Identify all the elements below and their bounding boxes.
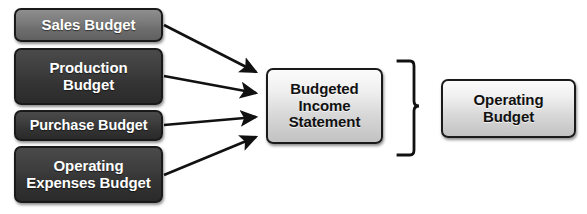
node-production-budget-label: Production Budget xyxy=(16,60,161,94)
arrow-purchase-to-income xyxy=(164,117,256,125)
node-sales-budget[interactable]: Sales Budget xyxy=(14,8,163,42)
node-purchase-budget[interactable]: Purchase Budget xyxy=(14,110,163,141)
node-purchase-budget-label: Purchase Budget xyxy=(16,117,161,133)
node-operating-budget[interactable]: Operating Budget xyxy=(441,79,576,138)
node-budgeted-income-statement[interactable]: Budgeted Income Statement xyxy=(266,68,383,144)
arrow-operating-expenses-to-income xyxy=(164,137,256,175)
budget-flow-diagram: Sales Budget Production Budget Purchase … xyxy=(0,0,587,214)
arrow-sales-to-income xyxy=(164,25,256,72)
curly-brace-icon xyxy=(398,61,419,155)
node-operating-expenses-budget-label: Operating Expenses Budget xyxy=(16,158,161,192)
node-sales-budget-label: Sales Budget xyxy=(16,17,161,34)
node-production-budget[interactable]: Production Budget xyxy=(14,48,163,105)
node-operating-expenses-budget[interactable]: Operating Expenses Budget xyxy=(14,146,163,203)
node-budgeted-income-statement-label: Budgeted Income Statement xyxy=(268,81,381,131)
arrow-production-to-income xyxy=(164,76,256,93)
node-operating-budget-label: Operating Budget xyxy=(443,92,574,126)
